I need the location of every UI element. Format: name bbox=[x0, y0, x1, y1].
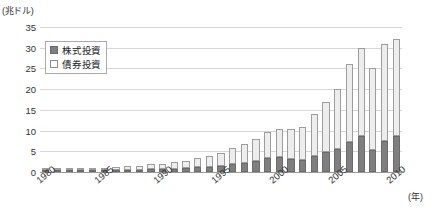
bar-segment-bond bbox=[358, 48, 365, 136]
legend-swatch-equity bbox=[50, 46, 58, 54]
legend-label-bond: 債券投資 bbox=[62, 57, 101, 71]
bar-2010 bbox=[393, 39, 400, 172]
bar-segment-bond bbox=[287, 129, 294, 159]
bar-segment-bond bbox=[334, 89, 341, 149]
bar-segment-equity bbox=[264, 158, 271, 172]
bar-segment-bond bbox=[299, 127, 306, 161]
stacked-bar-chart: (兆ドル) 05101520253035 1980198519901995200… bbox=[0, 0, 442, 208]
bar-segment-bond bbox=[241, 144, 248, 163]
bar-segment-equity bbox=[311, 156, 318, 172]
bar-segment-equity bbox=[147, 169, 154, 172]
bar-2005 bbox=[334, 89, 341, 172]
bar-1999 bbox=[264, 132, 271, 172]
bar-2009 bbox=[381, 44, 388, 172]
bar-1997 bbox=[241, 144, 248, 172]
bar-segment-bond bbox=[182, 161, 189, 169]
bar-1992 bbox=[182, 161, 189, 172]
bar-segment-bond bbox=[194, 158, 201, 168]
y-tick-label: 35 bbox=[6, 22, 36, 33]
bar-segment-bond bbox=[311, 114, 318, 156]
bar-segment-equity bbox=[369, 150, 376, 172]
bar-2001 bbox=[287, 129, 294, 173]
bar-segment-equity bbox=[136, 170, 143, 172]
y-tick-label: 10 bbox=[6, 125, 36, 136]
legend-item-bond: 債券投資 bbox=[50, 58, 101, 70]
bar-1988 bbox=[136, 166, 143, 172]
bar-2002 bbox=[299, 127, 306, 172]
bar-segment-bond bbox=[264, 132, 271, 158]
x-axis-unit-label: (年) bbox=[408, 190, 423, 203]
bar-segment-bond bbox=[206, 156, 213, 167]
bar-segment-bond bbox=[171, 162, 178, 169]
bar-1987 bbox=[124, 166, 131, 172]
bar-segment-equity bbox=[182, 168, 189, 172]
bar-segment-equity bbox=[252, 161, 259, 172]
bar-segment-equity bbox=[124, 170, 131, 172]
legend-item-equity: 株式投資 bbox=[50, 44, 101, 56]
bar-2007 bbox=[358, 48, 365, 172]
chart-legend: 株式投資 債券投資 bbox=[45, 41, 107, 74]
bar-1989 bbox=[147, 164, 154, 172]
bar-2003 bbox=[311, 114, 318, 172]
bar-1983 bbox=[77, 170, 84, 172]
bar-segment-equity bbox=[66, 170, 73, 172]
legend-swatch-bond bbox=[50, 60, 58, 68]
x-tick-label-1980: 1980 bbox=[34, 163, 57, 185]
y-tick-label: 0 bbox=[6, 167, 36, 178]
y-tick-label: 5 bbox=[6, 146, 36, 157]
bar-segment-bond bbox=[393, 39, 400, 135]
y-tick-label: 30 bbox=[6, 42, 36, 53]
bar-segment-equity bbox=[346, 142, 353, 172]
bar-segment-equity bbox=[322, 152, 329, 172]
bar-segment-equity bbox=[299, 160, 306, 172]
bar-segment-equity bbox=[381, 141, 388, 172]
bar-segment-equity bbox=[358, 136, 365, 172]
y-axis-unit-label: (兆ドル) bbox=[2, 4, 34, 17]
bar-segment-bond bbox=[369, 68, 376, 150]
bar-segment-bond bbox=[346, 64, 353, 142]
bar-2006 bbox=[346, 64, 353, 172]
bar-2008 bbox=[369, 68, 376, 172]
legend-label-equity: 株式投資 bbox=[62, 43, 101, 57]
bar-segment-bond bbox=[276, 129, 283, 157]
y-tick-label: 25 bbox=[6, 63, 36, 74]
bar-segment-equity bbox=[194, 167, 201, 172]
y-tick-label: 15 bbox=[6, 104, 36, 115]
bar-2004 bbox=[322, 102, 329, 172]
bar-1993 bbox=[194, 158, 201, 173]
bar-segment-bond bbox=[229, 148, 236, 164]
bar-1984 bbox=[89, 169, 96, 172]
bar-segment-equity bbox=[241, 163, 248, 172]
bar-segment-bond bbox=[381, 44, 388, 141]
bar-segment-equity bbox=[206, 167, 213, 172]
bar-segment-equity bbox=[89, 170, 96, 172]
bar-segment-bond bbox=[322, 102, 329, 153]
bar-1998 bbox=[252, 139, 259, 172]
bar-segment-equity bbox=[77, 170, 84, 172]
bar-1982 bbox=[66, 170, 73, 172]
bar-1994 bbox=[206, 156, 213, 172]
bar-segment-bond bbox=[252, 139, 259, 161]
y-tick-label: 20 bbox=[6, 84, 36, 95]
